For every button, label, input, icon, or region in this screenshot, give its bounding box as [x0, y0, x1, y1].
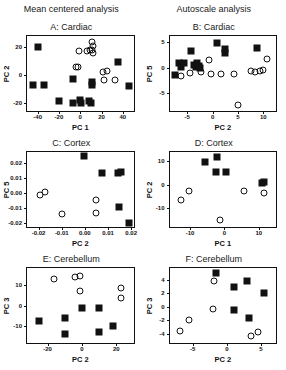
y-tick-mark [24, 103, 27, 104]
x-tick-label: 0 [79, 114, 82, 121]
y-tick-label: -20 [13, 99, 22, 106]
data-point-square [78, 305, 85, 312]
data-point-circle [260, 189, 267, 196]
plot-frame: -40-2002040-20020 [26, 35, 135, 112]
data-point-circle [255, 329, 262, 336]
x-axis-label: PC 2 [72, 355, 89, 364]
data-point-circle [118, 295, 125, 302]
data-point-square [188, 48, 195, 55]
data-point-circle [51, 276, 58, 283]
data-point-circle [186, 317, 193, 324]
y-tick-mark [167, 185, 170, 186]
data-point-circle [42, 188, 49, 195]
plot-area: -505420-2-4 PC 2 PC 3 [169, 267, 278, 344]
data-point-circle [247, 332, 254, 339]
data-point-circle [92, 196, 99, 203]
x-tick-label: 5 [236, 114, 239, 121]
data-point-square [260, 178, 267, 185]
data-point-square [222, 46, 229, 53]
y-tick-mark [167, 161, 170, 162]
y-tick-mark [167, 293, 170, 294]
data-point-square [245, 315, 252, 322]
y-axis-label: PC 3 [2, 297, 11, 314]
plot-frame: -20020100-10 [26, 267, 135, 344]
data-point-circle [198, 69, 205, 76]
data-point-square [41, 81, 48, 88]
data-point-circle [186, 187, 193, 194]
data-point-square [34, 44, 41, 51]
data-point-circle [264, 55, 271, 62]
panel-title: C: Cortex [0, 138, 143, 149]
data-point-square [202, 159, 209, 166]
data-point-circle [210, 278, 217, 285]
data-point-square [87, 99, 94, 106]
data-point-circle [112, 77, 119, 84]
data-point-circle [260, 67, 267, 74]
data-point-circle [100, 77, 107, 84]
x-tick-label: -5 [190, 346, 195, 353]
x-tick-label: 5 [259, 346, 262, 353]
y-tick-label: -10 [13, 323, 22, 330]
data-point-square [231, 306, 238, 313]
y-tick-mark [24, 223, 27, 224]
data-point-square [30, 81, 37, 88]
data-point-circle [187, 69, 194, 76]
x-axis-label: PC 1 [72, 123, 89, 132]
panel-c-cortex: C: Cortex -0.02-0.010.000.010.020.020.01… [0, 138, 143, 254]
data-point-circle [103, 67, 110, 74]
panel-e-cerebellum: E: Cerebellum -20020100-10 PC 2 PC 3 [0, 254, 143, 370]
data-point-square [222, 168, 229, 175]
data-point-circle [75, 63, 82, 70]
data-point-square [261, 290, 268, 297]
y-axis-label: PC 2 [2, 65, 11, 82]
data-point-circle [217, 71, 224, 78]
data-point-circle [77, 288, 84, 295]
data-point-square [116, 204, 123, 211]
data-point-square [78, 99, 85, 106]
panel-title: D: Cortex [143, 138, 286, 149]
y-tick-mark [167, 68, 170, 69]
x-axis-label: PC 1 [214, 239, 231, 248]
data-point-square [109, 322, 116, 329]
x-axis-label: PC 2 [214, 123, 231, 132]
y-axis-label: PC 3 [144, 297, 153, 314]
y-tick-mark [167, 334, 170, 335]
panel-title: B: Cardiac [143, 22, 286, 33]
plot-frame: -10010100-10 [169, 151, 278, 228]
data-point-circle [178, 72, 185, 79]
y-tick-mark [167, 208, 170, 209]
panel-title: F: Cerebellum [143, 254, 286, 265]
data-point-square [61, 315, 68, 322]
x-tick-label: 0 [211, 114, 214, 121]
y-tick-label: 10 [15, 281, 22, 288]
y-tick-label: 0.01 [10, 174, 22, 181]
x-tick-label: -5 [185, 114, 190, 121]
panel-a-cardiac: A: Cardiac -40-2002040-20020 PC 1 PC 2 [0, 22, 143, 138]
data-point-square [80, 152, 87, 159]
x-tick-label: 0.01 [102, 230, 114, 237]
y-tick-label: -10 [156, 205, 165, 212]
y-tick-mark [24, 178, 27, 179]
data-point-square [69, 99, 76, 106]
x-tick-label: -0.02 [32, 230, 46, 237]
data-point-circle [118, 285, 125, 292]
data-point-circle [178, 197, 185, 204]
data-point-square [126, 83, 133, 90]
y-tick-label: 10 [158, 158, 165, 165]
x-tick-label: 10 [255, 230, 262, 237]
data-point-square [114, 59, 121, 66]
y-tick-mark [167, 42, 170, 43]
data-point-square [212, 270, 219, 277]
plot-frame: -0.02-0.010.000.010.020.020.010.00-0.01-… [26, 151, 135, 228]
panel-f-cerebellum: F: Cerebellum -505420-2-4 PC 2 PC 3 [143, 254, 286, 370]
data-point-square [212, 168, 219, 175]
y-tick-label: 0.02 [10, 159, 22, 166]
x-tick-label: -40 [33, 114, 42, 121]
data-point-square [254, 44, 261, 51]
y-tick-mark [24, 47, 27, 48]
y-tick-mark [167, 320, 170, 321]
data-point-square [126, 220, 133, 227]
plot-area: -20020100-10 PC 2 PC 3 [26, 267, 135, 344]
y-axis-label: PC 5 [144, 65, 153, 82]
y-tick-label: 0 [19, 71, 22, 78]
